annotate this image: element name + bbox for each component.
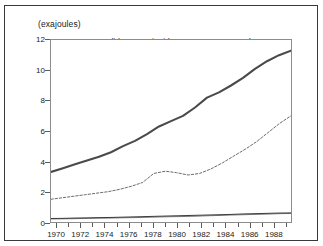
chart-page: (exajoules) SolidsLiquidsGasHydro 024681…	[0, 0, 323, 246]
plot-area	[50, 39, 292, 223]
x-tick-mark	[286, 223, 287, 227]
x-tick-mark	[92, 223, 93, 227]
figure-frame: (exajoules) SolidsLiquidsGasHydro 024681…	[4, 5, 318, 241]
x-tick-label: 1984	[217, 230, 235, 239]
x-tick-mark	[104, 223, 105, 228]
x-tick-mark	[225, 223, 226, 228]
x-tick-mark	[117, 223, 118, 227]
y-tick-label: 12	[36, 35, 45, 44]
x-tick-label: 1980	[168, 230, 186, 239]
series-line-hydro	[51, 213, 291, 219]
x-tick-mark	[262, 223, 263, 227]
x-tick-mark	[56, 223, 57, 228]
y-tick-label: 10	[36, 65, 45, 74]
x-tick-label: 1978	[144, 230, 162, 239]
series-line-liquids	[51, 116, 291, 199]
x-tick-mark	[177, 223, 178, 228]
x-tick-mark	[80, 223, 81, 228]
x-tick-mark	[141, 223, 142, 227]
x-tick-label: 1972	[71, 230, 89, 239]
x-tick-label: 1986	[241, 230, 259, 239]
y-axis-unit-label: (exajoules)	[38, 19, 81, 29]
x-tick-mark	[165, 223, 166, 227]
y-axis-labels: 024681012	[27, 39, 45, 223]
x-tick-label: 1974	[96, 230, 114, 239]
series-line-solids	[51, 51, 291, 172]
x-tick-mark	[213, 223, 214, 227]
x-tick-mark	[68, 223, 69, 227]
x-tick-mark	[189, 223, 190, 227]
x-tick-mark	[238, 223, 239, 227]
x-tick-label: 1988	[265, 230, 283, 239]
x-tick-mark	[250, 223, 251, 228]
x-tick-mark	[129, 223, 130, 228]
plot-lines	[51, 40, 291, 222]
x-tick-mark	[274, 223, 275, 228]
x-tick-mark	[201, 223, 202, 228]
x-axis-ticks	[50, 223, 292, 228]
x-axis-labels: 1970197219741976197819801982198419861988	[50, 230, 292, 242]
x-tick-mark	[153, 223, 154, 228]
x-tick-label: 1976	[120, 230, 138, 239]
x-tick-label: 1970	[47, 230, 65, 239]
x-tick-label: 1982	[192, 230, 210, 239]
